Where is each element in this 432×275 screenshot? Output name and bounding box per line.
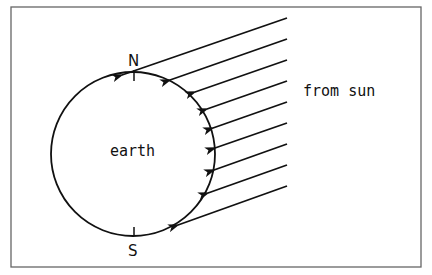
sun-ray-arrow xyxy=(207,81,287,109)
north-label: N xyxy=(128,52,139,70)
sun-ray-arrow xyxy=(213,102,287,128)
sun-ray-arrow xyxy=(178,186,287,225)
south-label: S xyxy=(128,242,138,260)
sun-ray-arrow xyxy=(195,60,287,92)
sun-ray-arrow xyxy=(214,144,287,170)
earth-sun-diagram: N S earth from sun xyxy=(0,0,432,275)
sun-ray-arrow xyxy=(122,18,287,75)
sun-ray-arrow xyxy=(215,123,287,148)
sun-ray-arrow xyxy=(208,165,287,193)
diagram-frame xyxy=(11,7,421,267)
earth-label: earth xyxy=(110,142,155,160)
from-sun-label: from sun xyxy=(303,82,375,100)
sun-ray-arrow xyxy=(170,39,287,80)
